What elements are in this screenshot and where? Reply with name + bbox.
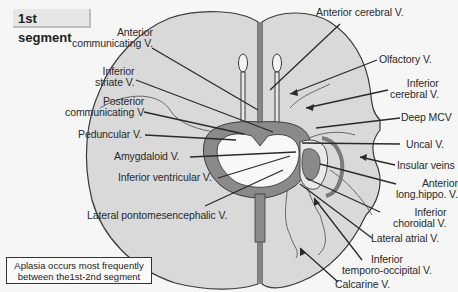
label-inferior-ventricular-vein: Inferior ventricular V. (118, 172, 212, 183)
label-line: long.hippo. V. (396, 189, 458, 200)
label-lateral-atrial-vein: Lateral atrial V. (371, 233, 439, 244)
label-lateral-pontomesencephalic-vein: Lateral pontomesencephalic V. (87, 210, 227, 221)
label-anterior-communicating-vein: Anterior communicating V. (72, 27, 153, 49)
label-line: striate V. (95, 77, 134, 88)
label-line: temporo-occipital V. (342, 265, 432, 276)
label-inferior-choroidal-vein: Inferior choroidal V. (393, 207, 446, 229)
label-line: communicating V. (72, 38, 153, 49)
aplasia-note: Aplasia occurs most frequently between t… (6, 257, 152, 284)
label-insular-veins: Insular veins (397, 160, 455, 171)
label-inferior-striate-vein: Inferior striate V. (95, 66, 134, 88)
label-deep-mcv: Deep MCV (401, 112, 452, 123)
label-line: communicating V (65, 107, 144, 118)
label-peduncular-vein: Peduncular V. (78, 129, 142, 140)
label-calcarine-vein: Calcarine V. (335, 279, 390, 290)
note-line-1: Aplasia occurs most frequently (7, 260, 151, 271)
note-line-2: between the1st-2nd segment (7, 271, 151, 282)
label-inferior-temporo-occipital-vein: Inferior temporo-occipital V. (342, 254, 432, 276)
label-anterior-cerebral-vein: Anterior cerebral V. (316, 7, 404, 18)
label-anterior-long-hippo-vein: Anterior long.hippo. V. (396, 178, 458, 200)
label-posterior-communicating-vein: Posterior communicating V (65, 96, 144, 118)
label-inferior-cerebral-vein: Inferior cerebral V. (390, 78, 439, 100)
label-line: choroidal V. (393, 218, 446, 229)
label-olfactory-vein: Olfactory V. (379, 54, 432, 65)
segment-title: 1st segment (13, 9, 91, 28)
label-line: cerebral V. (390, 89, 439, 100)
label-amygdaloid-vein: Amygdaloid V. (114, 151, 179, 162)
label-uncal-vein: Uncal V. (406, 139, 444, 150)
